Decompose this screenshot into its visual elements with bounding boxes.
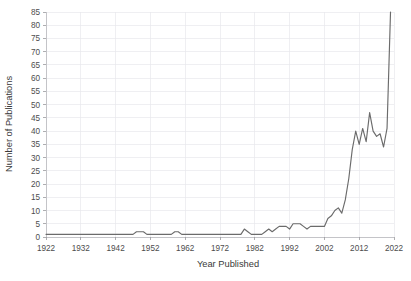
x-tick-label: 1972 bbox=[211, 244, 230, 253]
y-tick-label: 45 bbox=[31, 114, 41, 123]
y-tick-label: 50 bbox=[31, 101, 41, 110]
y-tick-label: 75 bbox=[31, 34, 41, 43]
x-axis-tick-labels: 1922193219421952196219721982199220022012… bbox=[37, 244, 404, 253]
data-series bbox=[46, 12, 391, 234]
y-tick-label: 40 bbox=[31, 127, 41, 136]
y-axis-title: Number of Publications bbox=[4, 76, 14, 172]
y-tick-label: 80 bbox=[31, 21, 41, 30]
publications-line-path bbox=[46, 12, 391, 234]
y-tick-label: 35 bbox=[31, 140, 41, 149]
x-tick-label: 1992 bbox=[280, 244, 299, 253]
y-tick-label: 20 bbox=[31, 180, 41, 189]
x-tick-label: 1982 bbox=[246, 244, 265, 253]
y-tick-label: 85 bbox=[31, 8, 41, 17]
x-axis-title: Year Published bbox=[197, 259, 259, 269]
y-axis-tick-labels: 0510152025303540455055606570758085 bbox=[31, 8, 41, 242]
y-tick-label: 15 bbox=[31, 193, 41, 202]
x-tick-label: 1932 bbox=[72, 244, 91, 253]
y-tick-label: 55 bbox=[31, 87, 41, 96]
x-tick-label: 1952 bbox=[141, 244, 160, 253]
chart-canvas: 0510152025303540455055606570758085 19221… bbox=[0, 0, 411, 281]
x-tick-label: 1922 bbox=[37, 244, 56, 253]
x-tick-label: 2002 bbox=[315, 244, 334, 253]
x-tick-label: 2012 bbox=[350, 244, 369, 253]
y-tick-label: 30 bbox=[31, 154, 41, 163]
y-tick-label: 60 bbox=[31, 74, 41, 83]
axis-lines bbox=[43, 12, 394, 240]
y-tick-label: 5 bbox=[35, 220, 40, 229]
y-tick-label: 0 bbox=[35, 233, 40, 242]
x-tick-label: 1942 bbox=[106, 244, 125, 253]
publications-line-chart: 0510152025303540455055606570758085 19221… bbox=[0, 0, 411, 281]
gridlines bbox=[46, 12, 394, 237]
x-tick-label: 2022 bbox=[385, 244, 404, 253]
x-tick-label: 1962 bbox=[176, 244, 195, 253]
y-tick-label: 25 bbox=[31, 167, 41, 176]
y-tick-label: 70 bbox=[31, 48, 41, 57]
y-tick-label: 65 bbox=[31, 61, 41, 70]
y-tick-label: 10 bbox=[31, 207, 41, 216]
